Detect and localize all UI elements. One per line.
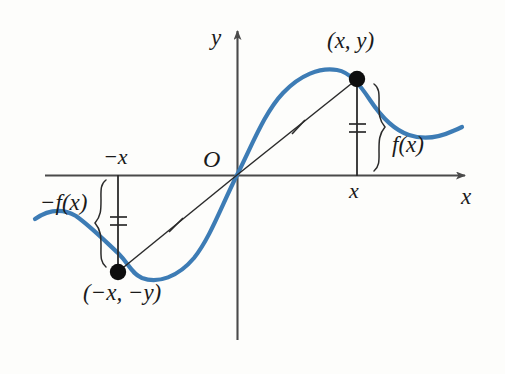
tick-label-negative-x: −x bbox=[103, 146, 128, 168]
point-marker-negative bbox=[110, 264, 126, 280]
odd-function-symmetry-figure: y x O (x, y) (−x, −y) −x x f(x) −f(x) bbox=[0, 0, 505, 374]
point-label-positive: (x, y) bbox=[327, 29, 374, 52]
congruence-tick-lower-segment bbox=[169, 218, 183, 232]
segment-origin-to-positive-point bbox=[237, 80, 356, 175]
tick-label-positive-x: x bbox=[349, 180, 359, 202]
diagram-canvas bbox=[0, 0, 505, 374]
x-axis-label: x bbox=[461, 185, 471, 208]
brace-label-positive-fx: f(x) bbox=[392, 133, 424, 156]
point-label-negative: (−x, −y) bbox=[83, 281, 161, 304]
origin-label: O bbox=[203, 147, 220, 171]
brace-label-negative-fx: −f(x) bbox=[40, 191, 87, 214]
point-marker-positive bbox=[349, 71, 365, 87]
brace-positive-fx bbox=[374, 84, 385, 171]
congruence-tick-upper-segment bbox=[292, 120, 305, 134]
brace-negative-fx bbox=[95, 180, 106, 267]
y-axis-label: y bbox=[211, 26, 221, 49]
